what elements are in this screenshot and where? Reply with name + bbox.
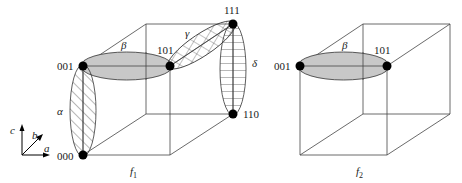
c-axis-label: c [10, 124, 15, 136]
vertex-111-dot [229, 20, 238, 29]
vertex-110-label: 110 [243, 108, 260, 120]
c-axis-arrow-icon [20, 124, 25, 131]
vertex-101-label: 101 [157, 44, 174, 56]
vertex-001-dot [79, 62, 88, 71]
vertex-000-dot [79, 151, 88, 160]
vertex-101-dot [166, 62, 175, 71]
b-axis-label: b [32, 129, 38, 141]
vertex-001-label: 001 [57, 60, 74, 72]
vertex-000-label: 000 [57, 150, 74, 162]
f1-caption: f1 [130, 165, 137, 180]
beta-label: β [341, 39, 348, 51]
delta-label: δ [252, 57, 258, 69]
axes-indicator: c b a [10, 124, 50, 158]
boolean-cube-diagram: 001 101 111 110 000 β α γ δ f1 c b a 0 [0, 0, 462, 183]
alpha-label: α [57, 105, 63, 117]
vertex-001-dot [296, 62, 305, 71]
vertex-101-dot [383, 62, 392, 71]
cube-f1: 001 101 111 110 000 β α γ δ f1 [57, 4, 260, 180]
cube-f2: 001 101 β f2 [274, 24, 450, 180]
a-axis-label: a [44, 142, 50, 154]
vertex-110-dot [229, 110, 238, 119]
vertex-111-label: 111 [224, 4, 240, 16]
vertex-001-label: 001 [274, 60, 291, 72]
f2-caption: f2 [356, 165, 363, 180]
cube1-edge [170, 114, 233, 155]
gamma-label: γ [185, 27, 190, 39]
vertex-101-label: 101 [374, 44, 391, 56]
beta-label: β [120, 39, 127, 51]
